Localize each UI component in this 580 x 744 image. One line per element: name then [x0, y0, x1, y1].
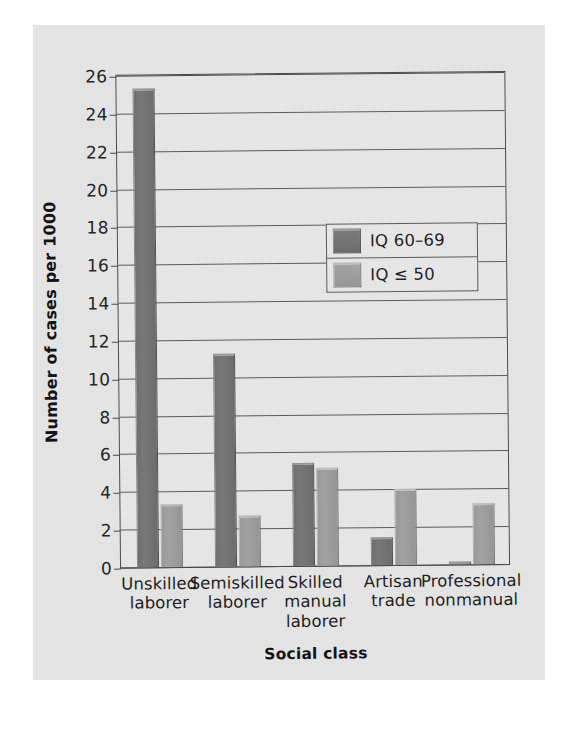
- x-axis-category-labels: UnskilledlaborerSemiskilledlaborerSkille…: [30, 23, 542, 28]
- bar-1-0: [160, 504, 183, 567]
- y-tick-label-14: 14: [87, 293, 109, 313]
- legend-label-0: IQ 60–69: [370, 230, 445, 250]
- x-category-label-line: laborer: [255, 611, 375, 632]
- bar-group-2: [288, 74, 339, 566]
- y-tick-mark-12: [112, 342, 119, 343]
- bar-group-4: [444, 72, 495, 564]
- chart-legend: IQ 60–69 IQ ≤ 50: [326, 222, 479, 292]
- y-tick-mark-18: [111, 228, 118, 229]
- y-tick-label-2: 2: [100, 520, 111, 540]
- y-tick-mark-16: [111, 266, 118, 267]
- legend-swatch-dark: [333, 228, 361, 253]
- bar-1-1: [239, 515, 261, 567]
- y-tick-mark-10: [112, 379, 119, 380]
- bar-0-2: [292, 463, 315, 566]
- y-tick-label-24: 24: [85, 104, 107, 124]
- y-tick-mark-24: [110, 114, 117, 115]
- y-tick-mark-22: [110, 152, 117, 153]
- y-tick-mark-4: [113, 493, 120, 494]
- figure-tilt-wrapper: Number of cases per 1000 024681012141618…: [30, 23, 548, 683]
- y-tick-label-18: 18: [86, 218, 108, 238]
- bar-0-4: [449, 561, 471, 564]
- x-category-label-line: nonmanual: [411, 590, 531, 611]
- y-tick-label-12: 12: [88, 331, 110, 351]
- y-tick-label-6: 6: [100, 445, 111, 465]
- bar-1-3: [394, 489, 417, 565]
- bars-group: [116, 72, 504, 76]
- y-tick-mark-14: [112, 304, 119, 305]
- figure-page: Number of cases per 1000 024681012141618…: [33, 25, 545, 680]
- y-axis-title: Number of cases per 1000: [40, 201, 61, 443]
- y-tick-mark-8: [113, 417, 120, 418]
- legend-item-0: IQ 60–69: [327, 223, 477, 257]
- y-tick-mark-2: [114, 531, 121, 532]
- bar-1-4: [472, 503, 495, 564]
- y-tick-label-16: 16: [87, 256, 109, 276]
- y-tick-label-8: 8: [99, 407, 110, 427]
- x-axis-title: Social class: [121, 643, 511, 665]
- y-tick-label-26: 26: [85, 66, 107, 86]
- bar-0-0: [132, 88, 159, 567]
- y-tick-label-10: 10: [88, 369, 110, 389]
- x-category-label-4: Professionalnonmanual: [411, 571, 531, 611]
- bar-1-2: [316, 468, 339, 566]
- y-tick-label-22: 22: [86, 142, 108, 162]
- x-category-label-line: Professional: [411, 571, 531, 592]
- legend-item-1: IQ ≤ 50: [327, 256, 477, 291]
- y-tick-mark-26: [109, 77, 116, 78]
- legend-label-1: IQ ≤ 50: [370, 265, 435, 285]
- y-tick-label-20: 20: [86, 180, 108, 200]
- y-tick-mark-20: [110, 190, 117, 191]
- bar-0-1: [213, 354, 237, 567]
- plot-area: 02468101214161820222426 IQ 60–69 IQ ≤ 50: [115, 71, 510, 569]
- bar-group-0: [132, 75, 183, 567]
- bar-0-3: [371, 537, 393, 566]
- bar-group-3: [366, 73, 417, 565]
- y-tick-label-4: 4: [100, 483, 111, 503]
- y-tick-mark-0: [114, 569, 121, 570]
- bar-group-1: [210, 74, 261, 566]
- y-tick-mark-6: [113, 455, 120, 456]
- legend-swatch-light: [333, 262, 361, 287]
